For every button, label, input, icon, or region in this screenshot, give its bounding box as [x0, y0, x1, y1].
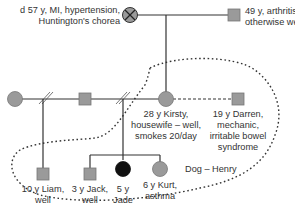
- jack-label: 3 y Jack, well: [72, 184, 108, 206]
- grandfather-label: 49 y, arthritis in left hip – otherwise …: [245, 6, 295, 28]
- jack-symbol: [84, 168, 96, 180]
- kirsty-label-line2: housewife – well,: [131, 120, 201, 131]
- kurt-label-line1: 6 y Kurt,: [143, 180, 177, 191]
- jade-label-line1: 5 y: [113, 184, 133, 195]
- darren-label-line2: mechanic,: [210, 120, 267, 131]
- liam-symbol: [37, 168, 49, 180]
- grandfather-label-line1: 49 y, arthritis in left hip –: [245, 6, 295, 17]
- grandmother-label: d 57 y, MI, hypertension, Huntington's c…: [20, 5, 120, 27]
- grandmother-label-line1: d 57 y, MI, hypertension,: [20, 5, 120, 16]
- kirsty-label-line1: 28 y Kirsty,: [131, 109, 201, 120]
- father-symbol: [79, 93, 91, 105]
- grandmother-symbol: [123, 8, 138, 23]
- kurt-symbol: [153, 162, 168, 177]
- jade-label: 5 y Jade: [113, 184, 133, 206]
- darren-label: 19 y Darren, mechanic, irritable bowel s…: [210, 109, 267, 153]
- darren-label-line3: irritable bowel: [210, 131, 267, 142]
- darren-label-line4: syndrome: [210, 142, 267, 153]
- ex-partner-symbol: [8, 92, 23, 107]
- kurt-label: 6 y Kurt, asthma: [143, 180, 177, 202]
- jade-symbol: [116, 162, 131, 177]
- grandfather-symbol: [228, 9, 240, 21]
- liam-label: 10 y Liam, well: [22, 184, 64, 206]
- jack-label-line1: 3 y Jack,: [72, 184, 108, 195]
- grandfather-label-line2: otherwise well: [245, 17, 295, 28]
- household-note: Dog – Henry: [185, 164, 237, 175]
- darren-label-line1: 19 y Darren,: [210, 109, 267, 120]
- kirsty-label: 28 y Kirsty, housewife – well, smokes 20…: [131, 109, 201, 142]
- darren-symbol: [232, 93, 244, 105]
- grandmother-label-line2: Huntington's chorea: [20, 16, 120, 27]
- kirsty-label-line3: smokes 20/day: [131, 131, 201, 142]
- jade-label-line2: Jade: [113, 195, 133, 206]
- liam-label-line2: well: [22, 195, 64, 206]
- kirsty-symbol: [159, 92, 174, 107]
- liam-label-line1: 10 y Liam,: [22, 184, 64, 195]
- kurt-label-line2: asthma: [143, 191, 177, 202]
- jack-label-line2: well: [72, 195, 108, 206]
